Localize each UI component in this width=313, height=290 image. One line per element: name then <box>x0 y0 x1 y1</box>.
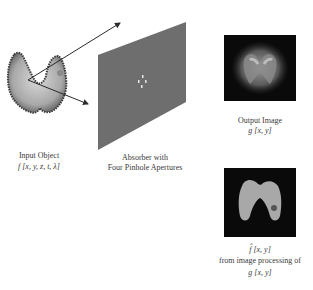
input-object-formula: f [x, y, z, t, λ] <box>4 162 74 172</box>
input-object-title: Input Object <box>4 151 74 161</box>
reconstruction-source-formula: g [x, y] <box>220 268 300 278</box>
pinhole-top <box>142 75 144 78</box>
absorber-label-line1: Absorber with <box>100 153 190 163</box>
reconstructed-image-bg <box>224 168 296 237</box>
output-image-title: Output Image <box>220 116 300 126</box>
object-spot <box>57 70 63 76</box>
output-image <box>224 35 296 101</box>
reconstruction-caption: from image processing of <box>210 256 310 266</box>
reconstruction-formula: f̂ [x, y] <box>220 245 300 255</box>
pinhole-bottom <box>141 85 143 88</box>
output-image-formula: g [x, y] <box>220 126 300 136</box>
reconstructed-image <box>224 168 296 237</box>
reconstructed-spot <box>271 205 277 211</box>
pinhole-right <box>145 80 147 83</box>
absorber-label-line2: Four Pinhole Apertures <box>100 163 190 173</box>
pinhole-left <box>138 80 140 83</box>
